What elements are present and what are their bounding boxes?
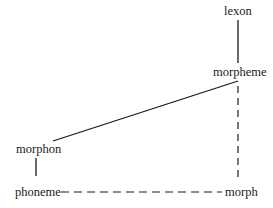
edges-layer [0,0,273,208]
node-morphon: morphon [16,143,61,156]
node-phoneme: phoneme [15,186,61,199]
node-morpheme: morpheme [213,66,266,79]
edge-morpheme-morphon [53,81,238,141]
node-morph: morph [225,186,258,199]
node-lexon: lexon [224,5,252,18]
morphology-diagram: lexon morpheme morphon phoneme morph [0,0,273,208]
